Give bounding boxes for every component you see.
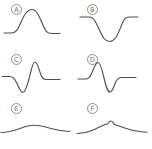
panel-f-plot [76,99,152,149]
panel-d: D [76,50,152,100]
panel-e-curve [1,126,70,133]
panel-d-plot [76,50,152,100]
waveform-figure: A B C D [0,0,152,149]
panel-f-curve [77,121,147,133]
panel-c-curve [2,62,60,92]
panel-d-curve [78,62,136,91]
panel-f: F [76,99,152,149]
panel-e-plot [0,99,76,149]
panel-c-plot [0,50,76,100]
panel-c: C [0,50,76,100]
panel-a-curve [4,9,60,33]
panel-b-curve [80,17,138,41]
panel-e: E [0,99,76,149]
panel-b-plot [76,0,152,50]
panel-b: B [76,0,152,50]
panel-a: A [0,0,76,50]
panel-a-plot [0,0,76,50]
